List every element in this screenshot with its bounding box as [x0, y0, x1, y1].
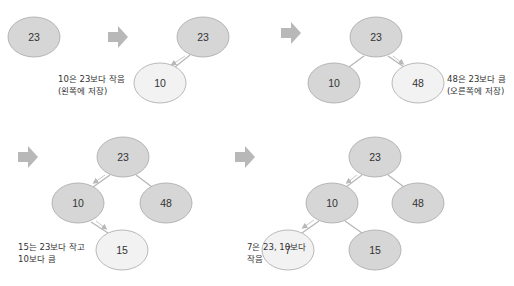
right-arrow-icon [18, 146, 38, 168]
node-label: 23 [370, 31, 382, 43]
panel-step2: 23 10 [134, 17, 229, 103]
node-label: 48 [412, 197, 424, 209]
node-label: 15 [116, 244, 128, 256]
caption-step5: 7은 23, 10보다 작음 [247, 241, 306, 265]
caption-step3: 48은 23보다 큼 (오른쪽에 저장) [447, 73, 506, 97]
caption-step4: 15는 23보다 작고 10보다 큼 [18, 241, 85, 265]
panel-step3: 23 10 48 [308, 17, 444, 103]
node-label: 23 [28, 31, 40, 43]
node-label: 10 [328, 77, 340, 89]
node-label: 10 [326, 197, 338, 209]
node-label: 15 [369, 244, 381, 256]
panel-step1: 23 [8, 17, 60, 57]
right-arrow-icon [235, 146, 255, 168]
right-arrow-icon [281, 22, 301, 44]
node-label: 23 [369, 151, 381, 163]
caption-step2: 10은 23보다 작음 (왼쪽에 저장) [58, 73, 125, 97]
node-label: 23 [197, 31, 209, 43]
node-label: 23 [117, 151, 129, 163]
node-label: 10 [72, 197, 84, 209]
node-label: 48 [412, 77, 424, 89]
node-label: 10 [154, 77, 166, 89]
node-label: 48 [160, 197, 172, 209]
right-arrow-icon [108, 26, 128, 48]
